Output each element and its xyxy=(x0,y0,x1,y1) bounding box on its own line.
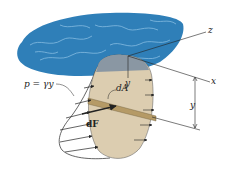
z-axis-label: z xyxy=(207,25,213,35)
x-axis-label: x xyxy=(211,76,216,86)
y-dimension-label: y xyxy=(189,100,196,110)
pressure-label: p = γy xyxy=(24,79,54,89)
dF-label: dF xyxy=(86,119,99,129)
hydrostatic-pressure-diagram: p = γy dA dF y y z x xyxy=(0,0,226,173)
y-plate-label: y xyxy=(124,78,131,88)
